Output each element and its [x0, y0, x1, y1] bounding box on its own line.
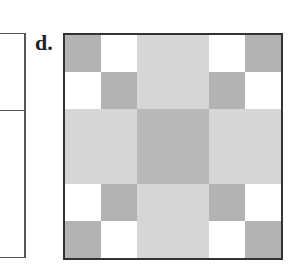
grid-cell: [137, 35, 173, 72]
grid-cell: [65, 72, 101, 109]
grid-cell: [65, 35, 101, 72]
panel-divider: [0, 33, 26, 34]
grid-cell: [101, 221, 137, 258]
panel-divider: [0, 257, 26, 258]
panel-label: d.: [35, 32, 53, 54]
grid-cell: [173, 221, 209, 258]
grid-cell: [65, 109, 101, 146]
grid-cell: [173, 184, 209, 221]
grid-cell: [173, 72, 209, 109]
grid-cell: [65, 184, 101, 221]
grid-cell: [101, 72, 137, 109]
grid-cell: [65, 147, 101, 184]
grid-cell: [101, 184, 137, 221]
grid-cell: [245, 184, 281, 221]
grid-cell: [209, 221, 245, 258]
grid-cell: [209, 147, 245, 184]
grid-cell: [245, 72, 281, 109]
grid-cell: [245, 147, 281, 184]
pattern-grid: [63, 33, 283, 260]
grid-cell: [137, 147, 173, 184]
grid-cell: [173, 35, 209, 72]
grid-cell: [209, 35, 245, 72]
grid-cell: [173, 109, 209, 146]
grid-cell: [137, 184, 173, 221]
grid-cell: [101, 109, 137, 146]
grid-cell: [245, 35, 281, 72]
grid-cell: [209, 109, 245, 146]
grid-cell: [137, 221, 173, 258]
grid-cell: [137, 72, 173, 109]
grid-cell: [65, 221, 101, 258]
grid-cell: [101, 35, 137, 72]
grid-cell: [101, 147, 137, 184]
grid-cell: [173, 147, 209, 184]
adjacent-panel-fragment: [4, 33, 26, 258]
grid-cell: [137, 109, 173, 146]
grid-cell: [245, 109, 281, 146]
grid-cell: [245, 221, 281, 258]
grid-cell: [209, 184, 245, 221]
panel-divider: [0, 110, 26, 111]
grid-cell: [209, 72, 245, 109]
